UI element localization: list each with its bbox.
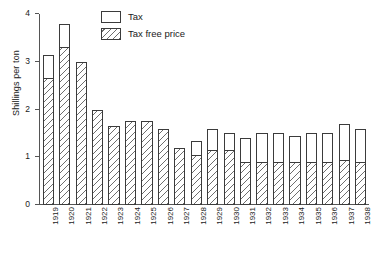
bar-segment-tax-free-price-1938 (355, 162, 366, 205)
y-tick-3: 3 (35, 61, 39, 62)
x-tick-label-1919: 1919 (52, 207, 60, 225)
bar-segment-tax-free-price-1920 (59, 47, 70, 205)
bar-1933 (273, 133, 284, 205)
bar-segment-tax-1938 (355, 129, 366, 163)
x-tick-label-1925: 1925 (150, 207, 158, 225)
bar-segment-tax-free-price-1932 (256, 162, 267, 205)
bar-segment-tax-free-price-1928 (191, 155, 202, 205)
bar-1925 (141, 121, 152, 205)
bar-segment-tax-free-price-1930 (224, 150, 235, 205)
bar-1923 (108, 126, 119, 205)
y-tick-label-4: 4 (25, 9, 30, 18)
bar-segment-tax-1931 (240, 138, 251, 163)
y-tick-2: 2 (35, 109, 39, 110)
x-tick-label-1932: 1932 (265, 207, 273, 225)
bar-1921 (76, 62, 87, 205)
legend-label-tax-free-price: Tax free price (128, 28, 185, 39)
bar-1937 (339, 124, 350, 205)
bar-1926 (158, 129, 169, 205)
bar-segment-tax-1919 (43, 55, 54, 80)
bar-segment-tax-free-price-1922 (92, 110, 103, 206)
bar-segment-tax-1928 (191, 141, 202, 156)
bar-segment-tax-1937 (339, 124, 350, 161)
chart-legend: Tax Tax free price (101, 8, 241, 42)
bar-1936 (322, 133, 333, 205)
bar-segment-tax-free-price-1924 (125, 121, 136, 205)
x-tick-label-1927: 1927 (183, 207, 191, 225)
bar-1922 (92, 110, 103, 206)
x-tick-label-1928: 1928 (200, 207, 208, 225)
legend-swatch-tax-free-price-icon (101, 28, 121, 40)
bar-1932 (256, 133, 267, 205)
bar-1927 (174, 148, 185, 205)
bar-segment-tax-1934 (289, 136, 300, 163)
bar-segment-tax-free-price-1931 (240, 162, 251, 205)
chart-container: Shillings per ton 01234 1919192019211922… (0, 0, 377, 257)
bar-segment-tax-1932 (256, 133, 267, 163)
x-tick-label-1924: 1924 (134, 207, 142, 225)
bar-segment-tax-free-price-1925 (141, 121, 152, 205)
bar-segment-tax-free-price-1937 (339, 160, 350, 205)
bar-1924 (125, 121, 136, 205)
y-tick-label-0: 0 (25, 200, 30, 209)
bar-segment-tax-free-price-1933 (273, 162, 284, 205)
x-tick-label-1937: 1937 (348, 207, 356, 225)
bar-segment-tax-free-price-1927 (174, 148, 185, 205)
x-axis-tick-labels: 1919192019211922192319241925192619271928… (40, 207, 369, 255)
x-tick-label-1921: 1921 (85, 207, 93, 225)
bar-1934 (289, 136, 300, 205)
y-tick-4: 4 (35, 13, 39, 14)
bar-segment-tax-1930 (224, 133, 235, 151)
x-tick-label-1931: 1931 (249, 207, 257, 225)
x-tick-label-1926: 1926 (167, 207, 175, 225)
bar-segment-tax-free-price-1936 (322, 162, 333, 205)
bar-segment-tax-free-price-1926 (158, 129, 169, 205)
x-tick-label-1923: 1923 (117, 207, 125, 225)
legend-item-tax-free-price: Tax free price (101, 25, 241, 42)
bar-segment-tax-1936 (322, 133, 333, 163)
y-tick-label-3: 3 (25, 57, 30, 66)
bar-segment-tax-1933 (273, 133, 284, 163)
bar-1928 (191, 141, 202, 205)
x-tick-label-1922: 1922 (101, 207, 109, 225)
bar-1929 (207, 129, 218, 205)
y-axis-title: Shillings per ton (11, 23, 21, 143)
bar-1930 (224, 133, 235, 205)
x-tick-label-1936: 1936 (331, 207, 339, 225)
y-tick-label-1: 1 (25, 152, 30, 161)
bar-segment-tax-free-price-1919 (43, 78, 54, 205)
bar-segment-tax-free-price-1929 (207, 150, 218, 205)
y-tick-0: 0 (35, 204, 39, 205)
plot-area: 01234 (39, 14, 369, 205)
bar-1935 (306, 133, 317, 205)
bar-group (40, 14, 369, 205)
x-tick-label-1935: 1935 (315, 207, 323, 225)
x-tick-label-1929: 1929 (216, 207, 224, 225)
x-tick-label-1938: 1938 (364, 207, 372, 225)
bar-1919 (43, 55, 54, 205)
bar-1938 (355, 129, 366, 205)
x-tick-label-1933: 1933 (282, 207, 290, 225)
bar-1931 (240, 138, 251, 205)
y-tick-label-2: 2 (25, 104, 30, 113)
bar-segment-tax-1935 (306, 133, 317, 163)
legend-item-tax: Tax (101, 8, 241, 25)
bar-1920 (59, 24, 70, 205)
x-tick-label-1920: 1920 (68, 207, 76, 225)
bar-segment-tax-free-price-1934 (289, 162, 300, 205)
x-tick-label-1934: 1934 (298, 207, 306, 225)
legend-label-tax: Tax (128, 11, 143, 22)
bar-segment-tax-1929 (207, 129, 218, 151)
bar-segment-tax-1920 (59, 24, 70, 49)
y-tick-1: 1 (35, 156, 39, 157)
bar-segment-tax-free-price-1921 (76, 62, 87, 205)
x-tick-label-1930: 1930 (233, 207, 241, 225)
legend-swatch-tax-icon (101, 11, 121, 23)
bar-segment-tax-free-price-1923 (108, 126, 119, 205)
bar-segment-tax-free-price-1935 (306, 162, 317, 205)
